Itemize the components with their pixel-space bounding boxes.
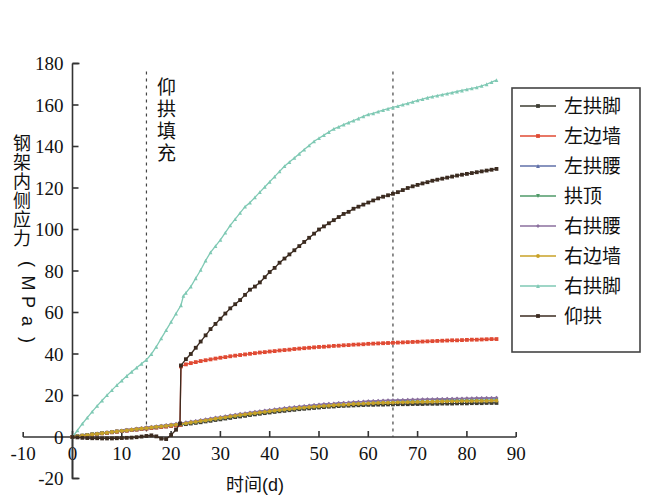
series-marker	[95, 436, 99, 440]
series-marker	[440, 177, 444, 181]
series-marker	[120, 429, 124, 433]
series-marker	[178, 422, 182, 426]
series-marker	[421, 340, 425, 344]
series-marker	[115, 436, 119, 440]
y-axis-title-char: P	[18, 296, 38, 308]
legend-swatch-marker	[536, 254, 540, 258]
series-marker	[490, 399, 494, 403]
series-marker	[352, 402, 356, 406]
series-marker	[248, 352, 252, 356]
series-marker	[317, 228, 321, 232]
series-marker	[223, 355, 227, 359]
series-marker	[179, 364, 183, 368]
series-marker	[470, 171, 474, 175]
series-marker	[495, 399, 499, 403]
series-marker	[149, 433, 153, 437]
series-marker	[204, 419, 208, 423]
series-marker	[174, 428, 178, 432]
series-marker	[149, 426, 153, 430]
series-marker	[135, 435, 139, 439]
series-marker	[140, 435, 144, 439]
series-marker	[154, 434, 158, 438]
series-marker	[386, 401, 390, 405]
series-marker	[342, 212, 346, 216]
series-marker	[411, 184, 415, 188]
series-marker	[460, 399, 464, 403]
series-marker	[302, 406, 306, 410]
series-marker	[406, 340, 410, 344]
series-marker	[258, 411, 262, 415]
series-marker	[189, 421, 193, 425]
series-marker	[337, 344, 341, 348]
series-marker	[76, 436, 80, 440]
series-marker	[125, 436, 129, 440]
y-axis-title-char: 应	[13, 210, 31, 230]
series-marker	[430, 179, 434, 183]
series-marker	[297, 347, 301, 351]
series-marker	[455, 338, 459, 342]
series-marker	[297, 244, 301, 248]
series-marker	[401, 340, 405, 344]
series-marker	[312, 405, 316, 409]
series-marker	[490, 337, 494, 341]
series-marker	[95, 432, 99, 436]
chart-container: -20020406080100120140160180-100102030405…	[0, 0, 645, 502]
y-axis-title-char: 侧	[13, 191, 31, 211]
series-marker	[475, 338, 479, 342]
series-marker	[125, 428, 129, 432]
series-marker	[317, 345, 321, 349]
series-marker	[258, 351, 262, 355]
annotation-invert-arch-fill: 仰拱填充	[157, 77, 176, 164]
series-marker	[391, 192, 395, 196]
series-marker	[278, 261, 282, 265]
series-marker	[322, 345, 326, 349]
series-marker	[475, 170, 479, 174]
y-axis-tick-label: 140	[35, 136, 64, 157]
series-marker	[435, 178, 439, 182]
series-marker	[219, 317, 223, 321]
series-marker	[248, 288, 252, 292]
y-axis-tick-label: -20	[38, 468, 63, 489]
series-marker	[283, 257, 287, 261]
series-marker	[401, 400, 405, 404]
series-marker	[273, 349, 277, 353]
series-marker	[223, 415, 227, 419]
series-marker	[199, 340, 203, 344]
series-marker	[386, 341, 390, 345]
series-marker	[440, 339, 444, 343]
series-marker	[292, 248, 296, 252]
series-marker	[337, 215, 341, 219]
series-marker	[238, 353, 242, 357]
series-marker	[214, 322, 218, 326]
series-marker	[268, 409, 272, 413]
y-axis-title-char: )	[18, 337, 38, 343]
series-marker	[490, 168, 494, 172]
y-axis-tick-label: 60	[45, 302, 64, 323]
series-marker	[426, 180, 430, 184]
series-marker	[485, 337, 489, 341]
series-marker	[401, 188, 405, 192]
series-marker	[80, 436, 84, 440]
series-marker	[169, 423, 173, 427]
x-axis-tick-label: 30	[211, 443, 230, 464]
series-marker	[317, 404, 321, 408]
series-marker	[445, 339, 449, 343]
series-marker	[440, 400, 444, 404]
series-marker	[366, 342, 370, 346]
series-marker	[366, 201, 370, 205]
series-marker	[347, 403, 351, 407]
series-marker	[421, 182, 425, 186]
y-axis-title-char: (	[18, 261, 38, 267]
series-marker	[371, 199, 375, 203]
series-marker	[391, 341, 395, 345]
series-marker	[332, 403, 336, 407]
series-marker	[184, 421, 188, 425]
series-marker	[307, 346, 311, 350]
series-marker	[435, 400, 439, 404]
series-marker	[288, 407, 292, 411]
series-marker	[204, 358, 208, 362]
series-marker	[361, 402, 365, 406]
series-marker	[495, 167, 499, 171]
x-axis-tick-label: -10	[11, 443, 36, 464]
y-axis-tick-label: 20	[45, 385, 64, 406]
